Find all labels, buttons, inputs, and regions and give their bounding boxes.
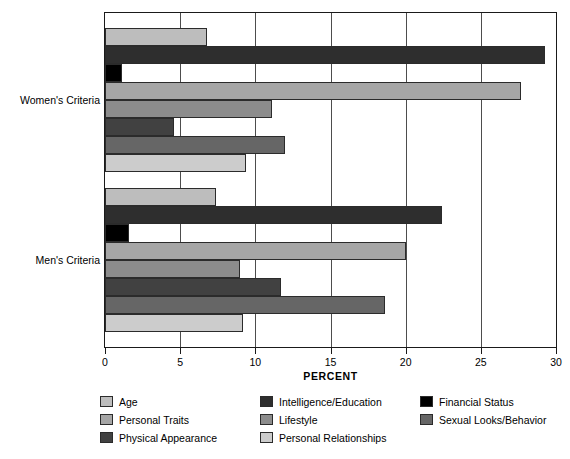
x-tick-label: 5 bbox=[177, 356, 183, 368]
bar bbox=[105, 260, 240, 278]
legend-item: Age bbox=[100, 394, 138, 409]
bar bbox=[105, 296, 385, 314]
x-tick bbox=[556, 348, 557, 354]
legend-label: Personal Traits bbox=[119, 414, 189, 426]
legend-swatch bbox=[420, 414, 433, 425]
legend-item: Physical Appearance bbox=[100, 430, 217, 445]
legend-label: Sexual Looks/Behavior bbox=[439, 414, 546, 426]
legend-label: Age bbox=[119, 396, 138, 408]
bar bbox=[105, 64, 122, 82]
legend-item: Personal Traits bbox=[100, 412, 189, 427]
legend-label: Lifestyle bbox=[279, 414, 318, 426]
category-label: Women's Criteria bbox=[0, 94, 100, 106]
x-tick-label: 15 bbox=[325, 356, 337, 368]
x-tick bbox=[105, 348, 106, 354]
x-tick-label: 10 bbox=[249, 356, 261, 368]
plot-area bbox=[104, 12, 557, 348]
legend-label: Physical Appearance bbox=[119, 432, 217, 444]
x-tick bbox=[406, 348, 407, 354]
x-tick bbox=[180, 348, 181, 354]
x-tick bbox=[255, 348, 256, 354]
x-tick bbox=[481, 348, 482, 354]
x-tick-label: 0 bbox=[102, 356, 108, 368]
legend-item: Financial Status bbox=[420, 394, 514, 409]
x-tick bbox=[331, 348, 332, 354]
legend-swatch bbox=[260, 432, 273, 443]
bar-chart: Women's CriteriaMen's Criteria 051015202… bbox=[0, 0, 570, 459]
legend-label: Financial Status bbox=[439, 396, 514, 408]
legend-item: Personal Relationships bbox=[260, 430, 386, 445]
bar bbox=[105, 136, 285, 154]
legend-swatch bbox=[420, 396, 433, 407]
bar bbox=[105, 82, 521, 100]
x-tick-label: 20 bbox=[400, 356, 412, 368]
bar bbox=[105, 242, 406, 260]
bar bbox=[105, 224, 129, 242]
legend-swatch bbox=[100, 396, 113, 407]
bar bbox=[105, 188, 216, 206]
x-tick-label: 25 bbox=[475, 356, 487, 368]
legend-swatch bbox=[260, 396, 273, 407]
legend-label: Personal Relationships bbox=[279, 432, 386, 444]
x-axis: 051015202530 bbox=[104, 348, 557, 388]
legend-swatch bbox=[100, 432, 113, 443]
legend-label: Intelligence/Education bbox=[279, 396, 382, 408]
x-tick-label: 30 bbox=[550, 356, 562, 368]
bar bbox=[105, 206, 442, 224]
category-axis: Women's CriteriaMen's Criteria bbox=[0, 0, 100, 459]
legend-swatch bbox=[260, 414, 273, 425]
bar bbox=[105, 154, 246, 172]
chart-legend: AgePersonal TraitsPhysical AppearanceInt… bbox=[100, 394, 520, 448]
bar bbox=[105, 100, 272, 118]
bar bbox=[105, 314, 243, 332]
bar bbox=[105, 28, 207, 46]
category-label: Men's Criteria bbox=[0, 254, 100, 266]
x-axis-title: PERCENT bbox=[104, 370, 557, 382]
legend-item: Lifestyle bbox=[260, 412, 318, 427]
bar bbox=[105, 46, 545, 64]
bar bbox=[105, 118, 174, 136]
legend-item: Intelligence/Education bbox=[260, 394, 382, 409]
legend-item: Sexual Looks/Behavior bbox=[420, 412, 546, 427]
legend-swatch bbox=[100, 414, 113, 425]
bar bbox=[105, 278, 281, 296]
